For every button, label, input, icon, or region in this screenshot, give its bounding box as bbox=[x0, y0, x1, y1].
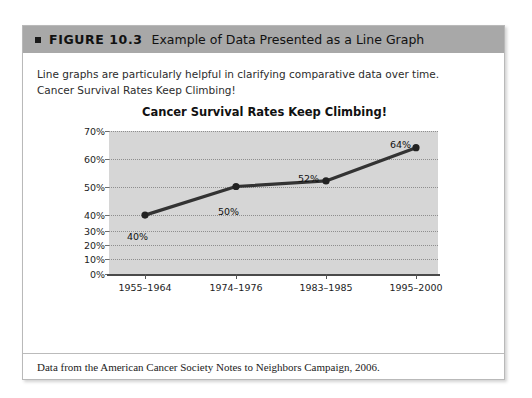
x-tick-0 bbox=[145, 274, 146, 279]
figure-caption-title: Example of Data Presented as a Line Grap… bbox=[152, 32, 425, 47]
x-tick-3 bbox=[416, 274, 417, 279]
data-point-marker bbox=[232, 183, 239, 190]
data-point-label: 40% bbox=[127, 231, 148, 242]
data-point-marker bbox=[322, 177, 329, 184]
figure-number: FIGURE 10.3 bbox=[49, 32, 143, 47]
x-axis-label: 1995–2000 bbox=[371, 282, 461, 293]
intro-line-1: Line graphs are particularly helpful in … bbox=[37, 67, 487, 83]
data-point-label: 52% bbox=[298, 173, 319, 184]
source-note: Data from the American Cancer Society No… bbox=[37, 361, 380, 373]
source-divider bbox=[23, 353, 504, 354]
x-axis-label: 1974–1976 bbox=[191, 282, 281, 293]
x-tick-2 bbox=[326, 274, 327, 279]
data-point-marker bbox=[412, 144, 419, 151]
x-tick-1 bbox=[236, 274, 237, 279]
figure-box: FIGURE 10.3 Example of Data Presented as… bbox=[22, 25, 505, 380]
figure-body: Line graphs are particularly helpful in … bbox=[23, 53, 504, 379]
data-point-label: 64% bbox=[390, 139, 411, 150]
data-point-marker bbox=[141, 212, 148, 219]
data-series-overlay bbox=[23, 105, 506, 355]
x-axis-label: 1955–1964 bbox=[100, 282, 190, 293]
intro-paragraph: Line graphs are particularly helpful in … bbox=[37, 67, 487, 98]
data-line bbox=[145, 148, 416, 215]
line-chart: Cancer Survival Rates Keep Climbing! 70%… bbox=[23, 105, 506, 355]
x-axis-label: 1983–1985 bbox=[281, 282, 371, 293]
intro-line-2: Cancer Survival Rates Keep Climbing! bbox=[37, 83, 487, 99]
data-point-label: 50% bbox=[218, 206, 239, 217]
square-bullet-icon bbox=[35, 37, 41, 43]
figure-header-bar: FIGURE 10.3 Example of Data Presented as… bbox=[23, 26, 504, 53]
